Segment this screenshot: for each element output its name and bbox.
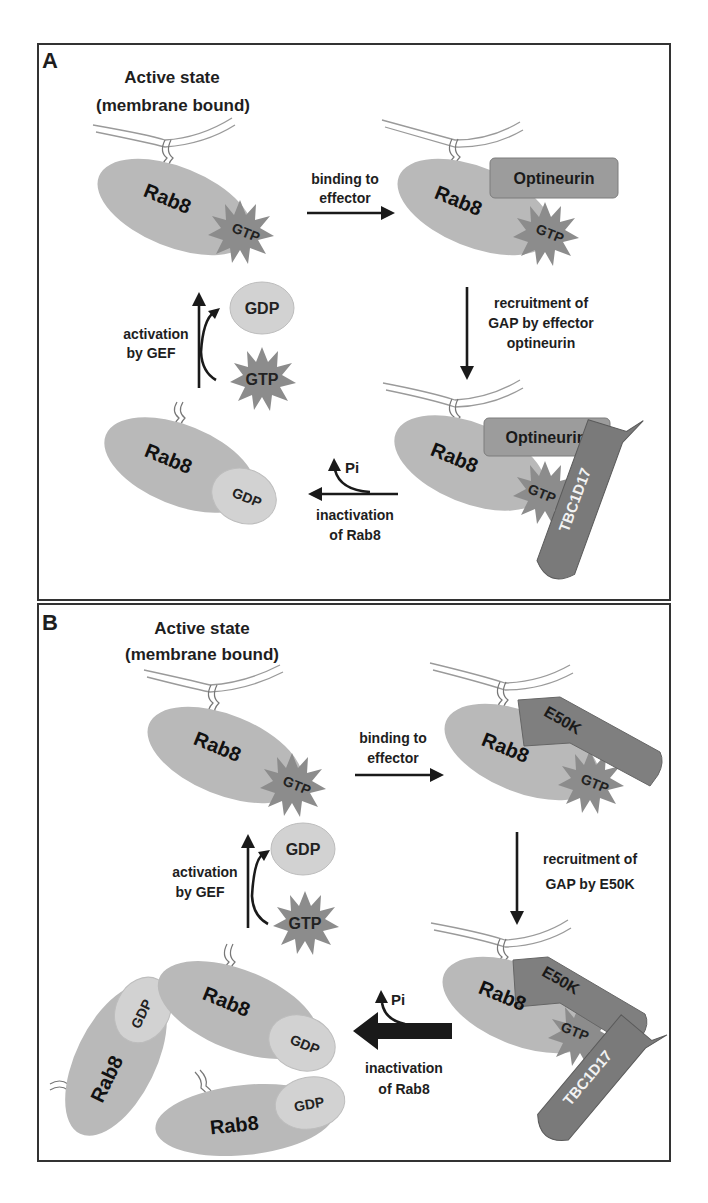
binding-label-line1: binding to <box>359 730 427 746</box>
rab8-e50k-tbc1d17-complex: E50K TBC1D17 Rab8 GTP <box>429 920 667 1154</box>
rab8-optineurin-tbc1d17-complex: Optineurin TBC1D17 Rab8 GTP <box>381 380 643 589</box>
recruitment-label-line3: optineurin <box>507 335 575 351</box>
activation-arrow-icon <box>192 292 220 388</box>
gdp-released: GDP <box>271 823 335 875</box>
optineurin-label: Optineurin <box>514 170 595 187</box>
recruitment-label-line2: GAP by E50K <box>545 876 634 892</box>
binding-label-line2: effector <box>367 750 419 766</box>
activation-label-line1: activation <box>172 864 237 880</box>
rab8-gdp-cluster: Rab8 GDP Rab8 GDP Rab8 GDP <box>44 941 349 1164</box>
gtp-loaded: GTP <box>273 891 339 955</box>
activation-label-line2: by GEF <box>126 345 175 361</box>
gtp-loaded: GTP <box>230 347 296 411</box>
inactivation-label-line1: inactivation <box>316 507 394 523</box>
panel-b-title-line1: Active state <box>154 619 249 638</box>
panel-a-letter: A <box>42 48 58 73</box>
inactivation-label-line2: of Rab8 <box>378 1081 430 1097</box>
rab8-e50k-complex: E50K Rab8 GTP <box>430 663 662 820</box>
activation-label-line2: by GEF <box>175 884 224 900</box>
rab8-gdp-inactive-2: Rab8 GDP <box>144 941 343 1081</box>
svg-text:GTP: GTP <box>289 915 322 932</box>
svg-text:GTP: GTP <box>246 371 279 388</box>
binding-arrow-icon <box>307 206 395 220</box>
panel-b-title-line2: (membrane bound) <box>125 645 279 664</box>
rab8-gtp-active-b: Rab8 GTP <box>134 665 326 823</box>
panel-a-title-line2: (membrane bound) <box>96 96 250 115</box>
binding-arrow-icon <box>355 768 444 782</box>
panel-b-letter: B <box>42 610 58 635</box>
recruitment-label-line2: GAP by effector <box>488 315 594 331</box>
recruitment-label-line1: recruitment of <box>494 295 588 311</box>
rab8-cycle-figure: A Active state (membrane bound) Rab8 GTP… <box>0 0 708 1203</box>
pi-label: Pi <box>345 459 359 476</box>
rab8-gdp-inactive-a: Rab8 GDP <box>91 398 285 533</box>
binding-label-line2: effector <box>319 190 371 206</box>
pi-label: Pi <box>391 991 405 1008</box>
panel-b: B Active state (membrane bound) Rab8 GTP… <box>38 604 670 1164</box>
inactivation-label-line1: inactivation <box>365 1060 443 1076</box>
recruitment-arrow-icon <box>460 287 474 380</box>
activation-arrow-icon <box>241 834 270 928</box>
gdp-released: GDP <box>230 282 294 334</box>
rab8-gtp-active-a: Rab8 GTP <box>84 118 274 275</box>
rab8-gdp-inactive-3: Rab8 GDP <box>152 1070 349 1164</box>
panel-a-title-line1: Active state <box>124 68 219 87</box>
rab8-optineurin-complex: Optineurin Rab8 GTP <box>382 120 618 275</box>
binding-label-line1: binding to <box>311 171 379 187</box>
panel-a: A Active state (membrane bound) Rab8 GTP… <box>38 44 670 600</box>
svg-text:Optineurin: Optineurin <box>506 429 587 446</box>
svg-text:GDP: GDP <box>245 300 280 317</box>
recruitment-label-line1: recruitment of <box>543 851 637 867</box>
svg-text:GDP: GDP <box>286 841 321 858</box>
activation-label-line1: activation <box>123 326 188 342</box>
recruitment-arrow-icon <box>510 832 524 925</box>
inactivation-label-line2: of Rab8 <box>329 527 381 543</box>
